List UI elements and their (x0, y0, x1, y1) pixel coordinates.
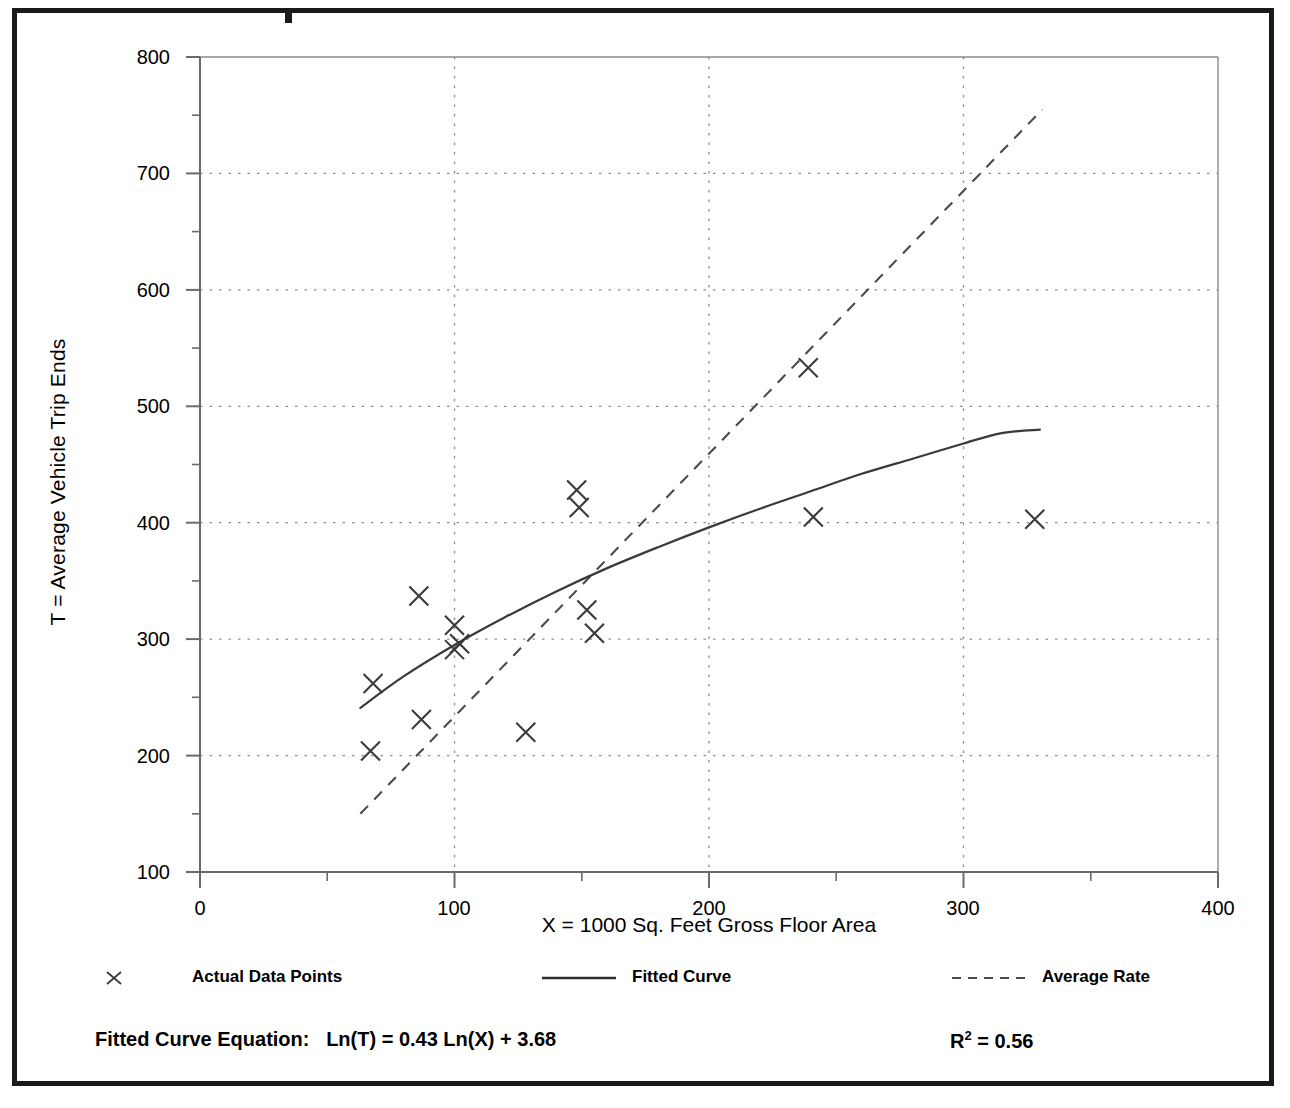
chart-legend: Actual Data Points Fitted Curve Average … (60, 962, 1220, 996)
solid-line-icon (540, 968, 618, 986)
x-marker-icon (100, 968, 178, 986)
legend-label: Fitted Curve (632, 967, 731, 987)
chart-figure: 800 700 600 500 400 300 200 100 0 100 20… (0, 0, 1290, 1108)
y-axis-minor-ticks (192, 115, 200, 814)
y-tick-label: 300 (100, 629, 170, 649)
chart-footer: Fitted Curve Equation: Ln(T) = 0.43 Ln(X… (60, 1028, 1230, 1060)
y-tick-label: 400 (100, 513, 170, 533)
y-tick-label: 700 (100, 163, 170, 183)
r-squared-value: R2 = 0.56 (950, 1028, 1033, 1053)
x-axis-major-ticks (200, 872, 1218, 888)
y-tick-label: 200 (100, 746, 170, 766)
y-axis-title: T = Average Vehicle Trip Ends (46, 272, 70, 692)
r2-label: R (950, 1030, 964, 1052)
legend-label: Average Rate (1042, 967, 1150, 987)
r2-exponent: 2 (964, 1028, 971, 1043)
plot-canvas (0, 0, 1290, 1108)
legend-entry-actual-data-points: Actual Data Points (100, 962, 342, 992)
y-tick-label: 800 (100, 47, 170, 67)
x-axis-title: X = 1000 Sq. Feet Gross Floor Area (200, 913, 1218, 937)
r2-number: = 0.56 (977, 1030, 1033, 1052)
legend-label: Actual Data Points (192, 967, 342, 987)
equation-label: Fitted Curve Equation: (95, 1028, 309, 1050)
fitted-curve-equation: Fitted Curve Equation: Ln(T) = 0.43 Ln(X… (95, 1028, 556, 1051)
legend-entry-average-rate: Average Rate (950, 962, 1150, 992)
y-tick-label: 100 (100, 862, 170, 882)
legend-entry-fitted-curve: Fitted Curve (540, 962, 731, 992)
dashed-line-icon (950, 968, 1028, 986)
y-tick-label: 500 (100, 396, 170, 416)
y-tick-label: 600 (100, 280, 170, 300)
plot-background (200, 57, 1218, 872)
equation-value: Ln(T) = 0.43 Ln(X) + 3.68 (326, 1028, 556, 1050)
